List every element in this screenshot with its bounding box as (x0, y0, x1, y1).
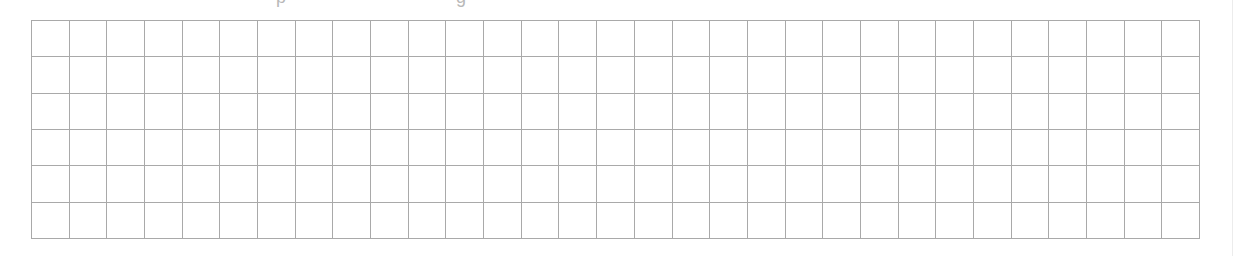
grid-cell (409, 203, 447, 239)
grid-cell (371, 166, 409, 202)
grid-cell (559, 203, 597, 239)
grid-cell (635, 57, 673, 93)
grid-cell (861, 94, 899, 130)
grid-cell (635, 94, 673, 130)
grid-cell (823, 94, 861, 130)
grid-cell (70, 57, 108, 93)
grid-cell (1049, 94, 1087, 130)
grid-cell (1162, 166, 1200, 202)
grid-cell (484, 57, 522, 93)
grid-cell (597, 94, 635, 130)
grid-cell (32, 57, 70, 93)
grid-cell (107, 130, 145, 166)
grid-cell (183, 94, 221, 130)
grid-cell (371, 57, 409, 93)
grid-cell (1012, 57, 1050, 93)
grid-cell (1087, 94, 1125, 130)
grid-cell (107, 94, 145, 130)
grid-cell (1125, 21, 1163, 57)
grid-cell (484, 94, 522, 130)
grid-cell (710, 130, 748, 166)
grid-cell (296, 130, 334, 166)
grid-cell (446, 57, 484, 93)
grid-cell (1125, 94, 1163, 130)
grid-cell (1162, 21, 1200, 57)
grid-cell (1125, 166, 1163, 202)
grid-cell (32, 130, 70, 166)
grid-cell (333, 94, 371, 130)
grid-cell (333, 166, 371, 202)
grid-cell (145, 203, 183, 239)
grid-cell (1087, 166, 1125, 202)
grid-cell (936, 57, 974, 93)
grid-cell (823, 21, 861, 57)
grid-cell (484, 130, 522, 166)
grid-cell (786, 94, 824, 130)
grid-cell (522, 94, 560, 130)
grid-cell (936, 130, 974, 166)
clipped-heading-fragment: g (456, 0, 466, 6)
grid-cell (522, 166, 560, 202)
grid-cell (899, 130, 937, 166)
grid-cell (748, 94, 786, 130)
grid-cell (710, 57, 748, 93)
grid-cell (220, 203, 258, 239)
grid-cell (522, 21, 560, 57)
grid-cell (183, 166, 221, 202)
grid-cell (258, 94, 296, 130)
grid-cell (823, 166, 861, 202)
grid-cell (1125, 203, 1163, 239)
grid-cell (258, 21, 296, 57)
grid-cell (258, 57, 296, 93)
grid-cell (673, 57, 711, 93)
grid-cell (296, 203, 334, 239)
grid-cell (70, 21, 108, 57)
grid-cell (899, 21, 937, 57)
grid-cell (371, 130, 409, 166)
grid-cell (1049, 21, 1087, 57)
grid-cell (861, 203, 899, 239)
grid-cell (145, 130, 183, 166)
grid-cell (522, 57, 560, 93)
grid-cell (635, 203, 673, 239)
grid-cell (1087, 21, 1125, 57)
grid-cell (145, 57, 183, 93)
grid-cell (823, 57, 861, 93)
grid-cell (673, 166, 711, 202)
grid-cell (32, 203, 70, 239)
grid-cell (635, 130, 673, 166)
grid-cell (899, 166, 937, 202)
grid-cell (522, 203, 560, 239)
grid-cell (861, 57, 899, 93)
grid-cell (673, 94, 711, 130)
grid-cell (936, 21, 974, 57)
grid-cell (597, 203, 635, 239)
grid-cell (371, 94, 409, 130)
empty-grid-table (31, 20, 1200, 239)
grid-cell (70, 130, 108, 166)
grid-cell (1087, 130, 1125, 166)
grid-cell (258, 203, 296, 239)
grid-cell (220, 57, 258, 93)
grid-cell (409, 130, 447, 166)
grid-cell (409, 94, 447, 130)
grid-cell (974, 203, 1012, 239)
grid-cell (786, 57, 824, 93)
grid-cell (258, 166, 296, 202)
grid-cell (786, 203, 824, 239)
grid-cell (748, 166, 786, 202)
grid-cell (936, 166, 974, 202)
grid-cell (1049, 203, 1087, 239)
grid-cell (1049, 57, 1087, 93)
grid-cell (710, 94, 748, 130)
grid-cell (70, 203, 108, 239)
grid-cell (446, 130, 484, 166)
grid-cell (32, 21, 70, 57)
grid-cell (786, 21, 824, 57)
grid-cell (748, 130, 786, 166)
grid-cell (823, 130, 861, 166)
grid-cell (559, 130, 597, 166)
grid-cell (710, 166, 748, 202)
grid-cell (145, 166, 183, 202)
grid-cell (597, 166, 635, 202)
